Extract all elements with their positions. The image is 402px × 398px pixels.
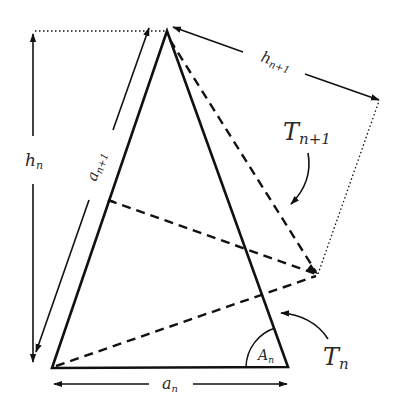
dashed-edge-apex-to-right	[170, 40, 316, 272]
dashed-edge-side-to-right	[108, 200, 316, 274]
label-t-n-plus-1: Tn+1	[283, 118, 331, 148]
triangle-t-n	[52, 31, 288, 368]
a-n-plus-1-arrow-upper	[113, 28, 149, 130]
a-n-plus-1-arrow-lower	[36, 200, 89, 352]
label-h-n: hn	[25, 150, 43, 172]
h-n-plus-1-arrow-right	[305, 74, 379, 100]
dashed-edge-base-to-right	[56, 276, 316, 366]
triangle-diagram: hn an+1 hn+1 an An Tn+1 Tn	[0, 0, 402, 398]
label-t-n: Tn	[323, 343, 349, 373]
label-a-n: an	[162, 374, 178, 394]
right-vertex-arrow-icon	[306, 264, 318, 274]
label-h-n-plus-1: hn+1	[258, 48, 293, 76]
label-angle-a-n: An	[256, 347, 274, 365]
triangle-t-n-plus-1	[56, 40, 316, 366]
t-n-plus-1-pointer-arrow	[291, 153, 309, 204]
t-n-pointer-arrow	[281, 313, 328, 339]
dotted-guide-right	[318, 101, 379, 274]
h-n-plus-1-arrow-left	[173, 27, 243, 52]
label-a-n-plus-1: an+1	[83, 149, 111, 184]
